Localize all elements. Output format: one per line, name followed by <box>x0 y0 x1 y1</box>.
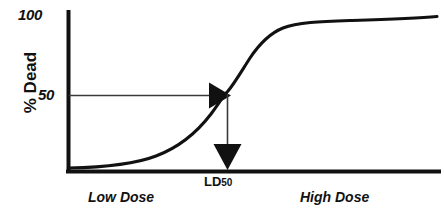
y-axis-title: % Dead <box>22 46 39 120</box>
x-axis-high-dose-label: High Dose <box>300 190 369 204</box>
x-axis-low-dose-label: Low Dose <box>88 190 154 204</box>
ld50-label-main: LD <box>204 174 221 189</box>
ld50-dose-response-figure: typical dose-response, mortality per dos… <box>0 0 444 216</box>
y-tick-label-50: 50 <box>38 87 54 102</box>
ld50-label-subscript: 50 <box>221 177 232 188</box>
ld50-label: LD50 <box>204 175 232 188</box>
y-tick-label-100: 100 <box>18 7 42 22</box>
